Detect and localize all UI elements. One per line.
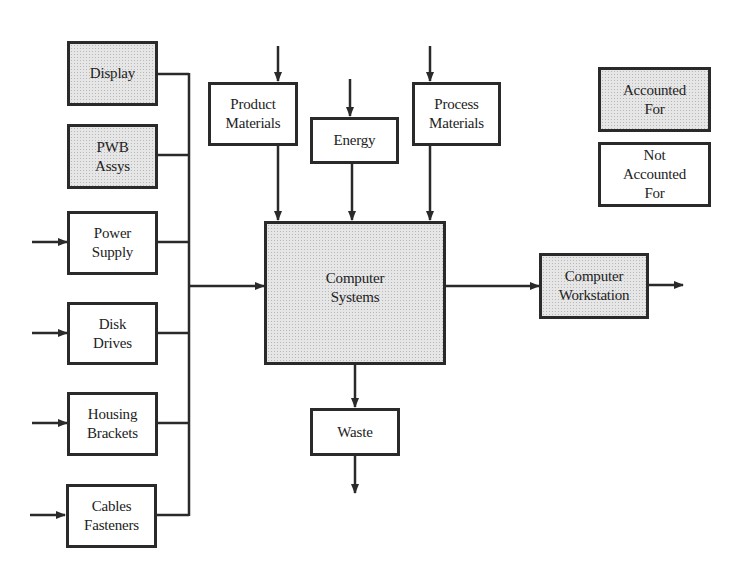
product-materials-label-line2: Materials (226, 114, 281, 133)
computer-systems-box: ComputerSystems (264, 221, 446, 365)
computer-workstation-label-line1: Computer (559, 267, 630, 286)
power-supply-label-line1: Power (92, 224, 133, 243)
pwb-label-line2: Assys (95, 157, 130, 176)
computer-systems-label-line2: Systems (326, 288, 384, 307)
product-materials-box: ProductMaterials (208, 82, 298, 146)
legend-accounted-for: AccountedFor (598, 67, 711, 132)
display-label: Display (90, 64, 135, 83)
legend-accounted-line2: For (623, 100, 686, 119)
cables-fasteners-label-line1: Cables (84, 497, 139, 516)
computer-systems-label-line1: Computer (326, 269, 384, 288)
legend-not-accounted-for: NotAccountedFor (598, 142, 711, 207)
cables-fasteners-box: CablesFasteners (66, 484, 157, 548)
computer-workstation-box: ComputerWorkstation (539, 253, 649, 319)
disk-drives-label-line1: Disk (93, 315, 132, 334)
cables-fasteners-label-line2: Fasteners (84, 516, 139, 535)
process-materials-box: ProcessMaterials (412, 82, 501, 146)
housing-brackets-label-line1: Housing (87, 405, 138, 424)
process-materials-label-line2: Materials (429, 114, 484, 133)
housing-brackets-label-line2: Brackets (87, 424, 138, 443)
legend-not-accounted-line1: Not (623, 146, 686, 165)
waste-label: Waste (337, 423, 372, 442)
display-box: Display (67, 41, 158, 106)
computer-workstation-label-line2: Workstation (559, 286, 630, 305)
power-supply-box: PowerSupply (67, 211, 158, 275)
process-materials-label-line1: Process (429, 95, 484, 114)
pwb-label-line1: PWB (95, 138, 130, 157)
waste-box: Waste (310, 408, 400, 456)
legend-not-accounted-line2: Accounted (623, 165, 686, 184)
disk-drives-box: DiskDrives (67, 302, 158, 365)
product-materials-label-line1: Product (226, 95, 281, 114)
pwb-assys-box: PWBAssys (67, 124, 158, 189)
legend-accounted-line1: Accounted (623, 81, 686, 100)
disk-drives-label-line2: Drives (93, 334, 132, 353)
energy-label: Energy (334, 131, 376, 150)
power-supply-label-line2: Supply (92, 243, 133, 262)
housing-brackets-box: HousingBrackets (67, 392, 158, 456)
energy-box: Energy (310, 117, 399, 164)
legend-not-accounted-line3: For (623, 184, 686, 203)
